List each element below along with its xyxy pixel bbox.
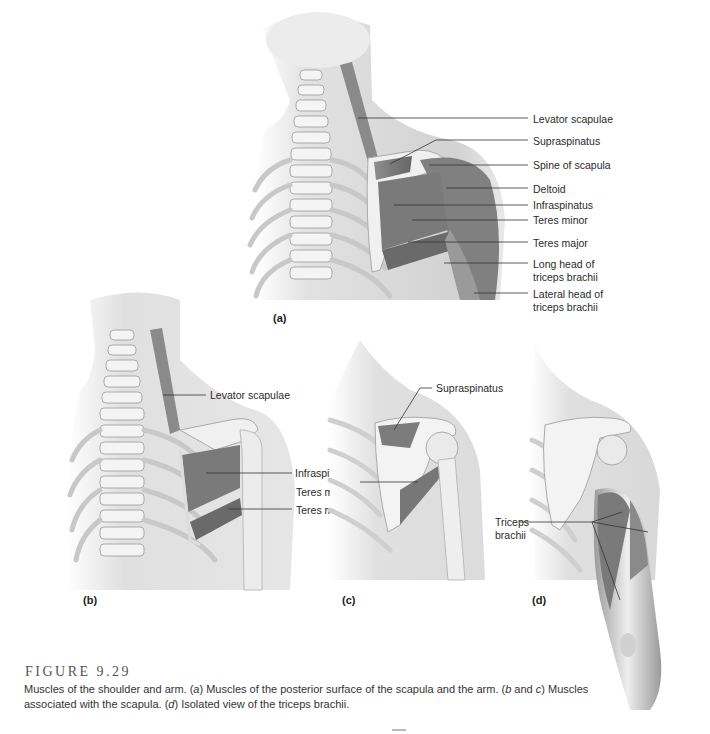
panel-label-d: (d) xyxy=(532,594,546,606)
figure-caption: Muscles of the shoulder and arm. (a) Mus… xyxy=(24,682,604,712)
caption-text: and xyxy=(511,683,535,695)
label-deltoid: Deltoid xyxy=(533,183,566,195)
panel-d: Triceps brachii (d) xyxy=(480,320,710,720)
caption-text: ) Isolated view of the triceps brachii. xyxy=(174,698,349,710)
label-teres-minor: Teres minor xyxy=(533,214,588,226)
panel-a: Levator scapulae Supraspinatus Spine of … xyxy=(0,0,710,300)
label-triceps-brachii-line1: Triceps xyxy=(495,516,529,528)
label-levator-scapulae: Levator scapulae xyxy=(210,389,290,401)
scapular-muscles-illustration-b xyxy=(0,290,320,610)
label-spine-of-scapula: Spine of scapula xyxy=(533,159,611,171)
label-supraspinatus: Supraspinatus xyxy=(533,135,600,147)
label-long-head-triceps-line2: triceps brachii xyxy=(533,271,598,283)
label-infraspinatus: Infraspinatus xyxy=(533,199,593,211)
panel-c: Supraspinatus (c) xyxy=(320,320,500,610)
label-lateral-head-triceps-line2: triceps brachii xyxy=(533,301,598,313)
caption-text: ) Muscles of the posterior surface of th… xyxy=(199,683,505,695)
scapula-supraspinatus-illustration-c xyxy=(320,320,500,610)
label-long-head-triceps-line1: Long head of xyxy=(533,258,594,270)
label-lateral-head-triceps-line1: Lateral head of xyxy=(533,288,603,300)
posterior-shoulder-illustration-a xyxy=(0,0,710,300)
panel-label-b: (b) xyxy=(83,594,97,606)
panel-label-c: (c) xyxy=(342,594,355,606)
label-levator-scapulae: Levator scapulae xyxy=(533,113,613,125)
caption-text: Muscles of the shoulder and arm. ( xyxy=(24,683,193,695)
panel-b: Levator scapulae Infraspinatus Teres min… xyxy=(0,290,320,610)
figure-number: FIGURE 9.29 xyxy=(25,664,131,680)
label-triceps-brachii-line2: brachii xyxy=(495,529,526,541)
page-mark-divider xyxy=(392,729,406,731)
label-teres-major: Teres major xyxy=(533,237,588,249)
